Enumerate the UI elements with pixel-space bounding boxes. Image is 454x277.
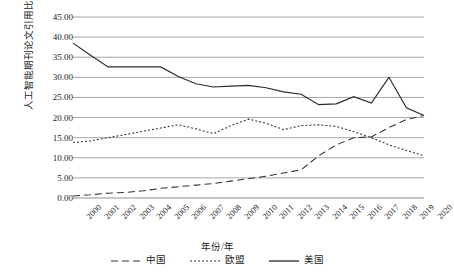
x-axis-tick-label: 2014 (330, 202, 349, 221)
legend-item-2: 美国 (269, 256, 324, 266)
x-axis-tick-label: 2019 (417, 202, 436, 221)
legend-label: 欧盟 (225, 256, 245, 266)
x-axis-tick-label: 2002 (119, 202, 138, 221)
legend-swatch-dashed (111, 256, 141, 265)
legend-item-0: 中国 (111, 256, 166, 266)
legend-label: 中国 (146, 256, 166, 266)
x-axis-tick-label: 2016 (365, 202, 384, 221)
x-axis-title: 年份/年 (0, 239, 435, 253)
x-axis-tick-label: 2005 (172, 202, 191, 221)
x-axis-tick-label: 2003 (137, 202, 156, 221)
x-axis-tick-label: 2004 (154, 202, 173, 221)
chart-legend: 中国欧盟美国 (0, 256, 435, 266)
legend-label: 美国 (304, 256, 324, 266)
x-axis-tick-label: 2006 (189, 202, 208, 221)
x-axis-tick-label: 2015 (347, 202, 366, 221)
x-axis-tick-label: 2008 (224, 202, 243, 221)
x-axis-tick-label: 2009 (242, 202, 261, 221)
legend-swatch-solid (269, 256, 299, 265)
x-axis-tick-label: 2000 (84, 202, 103, 221)
x-axis-tick-label: 2007 (207, 202, 226, 221)
x-axis-tick-label: 2020 (435, 202, 454, 221)
x-axis-tick-label: 2017 (382, 202, 401, 221)
x-axis-tick-label: 2012 (295, 202, 314, 221)
x-axis-tick-label: 2010 (259, 202, 278, 221)
x-axis-tick-label: 2001 (102, 202, 121, 221)
x-axis-tick-label: 2013 (312, 202, 331, 221)
x-axis-tick-label: 2011 (277, 202, 296, 221)
legend-swatch-dotted (190, 256, 220, 265)
legend-item-1: 欧盟 (190, 256, 245, 266)
x-axis-tick-label: 2018 (400, 202, 419, 221)
